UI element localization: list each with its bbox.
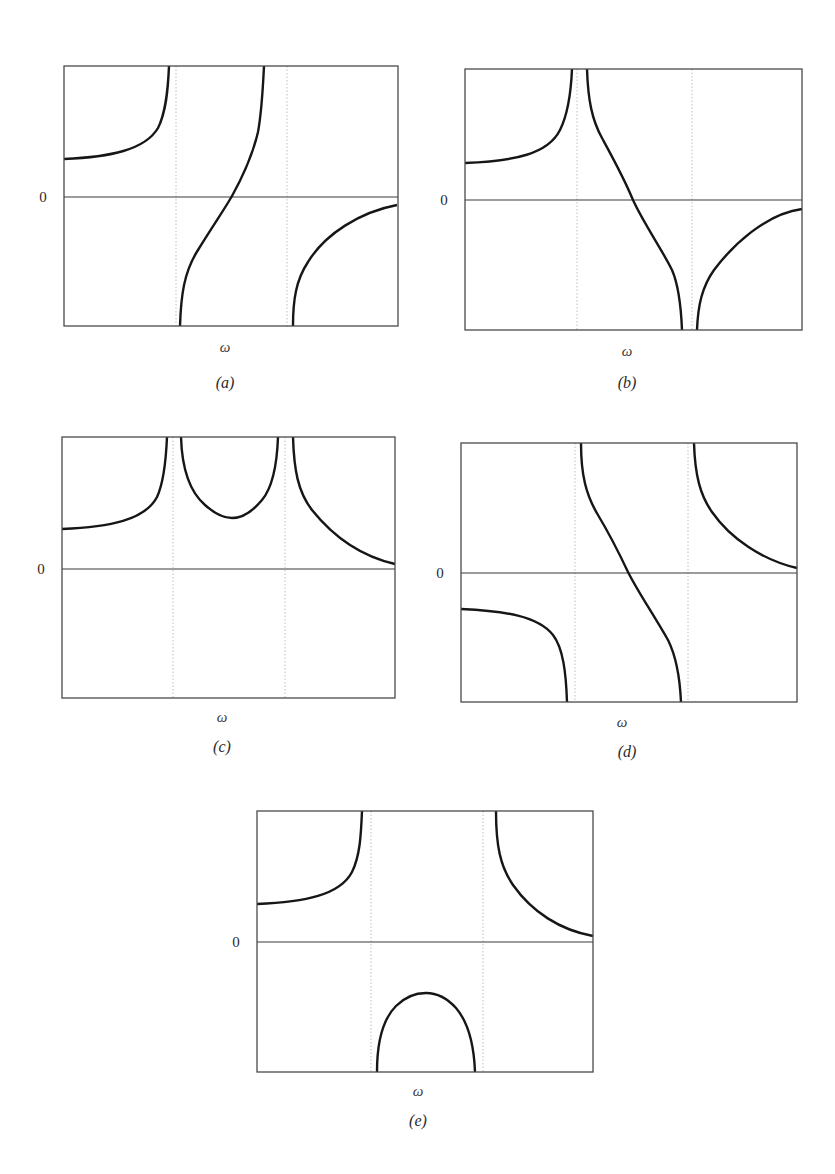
panel-caption: (d) [618, 743, 637, 761]
curve-branch-3 [697, 209, 802, 330]
panels-root: 0ω(a)0ω(b)0ω(c)0ω(d)0ω(e) [37, 66, 802, 1130]
panel-a: 0ω(a) [39, 66, 398, 392]
zero-tick-label: 0 [440, 192, 448, 208]
curve-branch-2 [180, 66, 264, 326]
x-axis-label: ω [622, 343, 633, 359]
panel-b: 0ω(b) [440, 69, 802, 392]
plot-frame [62, 437, 395, 698]
curve-branch-1 [257, 811, 362, 904]
panel-caption: (b) [618, 374, 637, 392]
curve-branch-2 [181, 437, 278, 518]
curve-branch-1 [461, 609, 567, 702]
curve-branch-3 [496, 811, 593, 936]
curve-branch-3 [293, 205, 397, 326]
curve-branch-1 [465, 69, 572, 163]
figure: 0ω(a)0ω(b)0ω(c)0ω(d)0ω(e) [0, 0, 835, 1174]
panel-c: 0ω(c) [37, 437, 395, 756]
curve-branch-3 [293, 437, 395, 564]
curve-branch-2 [377, 993, 475, 1072]
zero-tick-label: 0 [39, 189, 47, 205]
panel-caption: (c) [213, 738, 231, 756]
zero-tick-label: 0 [232, 934, 240, 950]
curve-branch-1 [64, 66, 169, 159]
x-axis-label: ω [617, 714, 628, 730]
zero-tick-label: 0 [37, 561, 45, 577]
x-axis-label: ω [217, 709, 228, 725]
panel-e: 0ω(e) [232, 811, 593, 1130]
panel-d: 0ω(d) [436, 443, 797, 761]
x-axis-label: ω [220, 339, 231, 355]
x-axis-label: ω [413, 1083, 424, 1099]
zero-tick-label: 0 [436, 565, 444, 581]
curve-branch-1 [62, 437, 167, 529]
curve-branch-3 [694, 443, 797, 568]
panel-caption: (e) [409, 1112, 427, 1130]
panel-caption: (a) [216, 374, 235, 392]
